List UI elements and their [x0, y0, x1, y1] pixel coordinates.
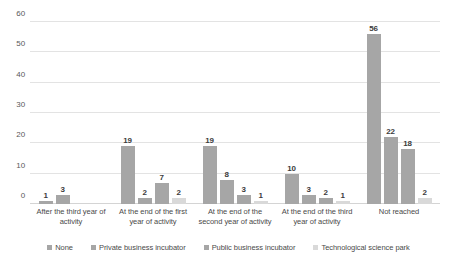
bar-slot[interactable]: 1	[336, 22, 350, 204]
legend-label: Public business incubator	[212, 243, 296, 252]
y-axis-tick-label: 60	[16, 9, 25, 18]
bar-slot[interactable]: 3	[237, 22, 251, 204]
y-axis-tick-label: 40	[16, 69, 25, 78]
x-axis-category-labels: After the third year of activityAt the e…	[30, 207, 440, 227]
bar-value-label: 1	[258, 191, 262, 200]
bar-value-label: 19	[205, 136, 214, 145]
bar[interactable]	[237, 195, 251, 204]
bar-group: 5622182	[358, 22, 440, 204]
legend-label: Technological science park	[321, 243, 409, 252]
legend-label: None	[55, 243, 73, 252]
bar-chart: 0102030405060 13001927219831103215622182…	[0, 0, 457, 264]
bar-value-label: 22	[386, 127, 395, 136]
bar-slot[interactable]: 56	[367, 22, 381, 204]
x-axis-category-label: Not reached	[358, 207, 440, 227]
bar[interactable]	[384, 137, 398, 204]
bar-value-label: 19	[123, 136, 132, 145]
bar[interactable]	[39, 201, 53, 204]
bar[interactable]	[155, 183, 169, 204]
bar-slot[interactable]: 19	[121, 22, 135, 204]
y-axis-tick-label: 30	[16, 100, 25, 109]
legend-item[interactable]: None	[47, 243, 73, 252]
bar-group-bars: 10321	[276, 22, 358, 204]
bar[interactable]	[418, 198, 432, 204]
bar-value-label: 2	[422, 188, 426, 197]
bar[interactable]	[367, 34, 381, 204]
bar-slot[interactable]: 1	[39, 22, 53, 204]
legend-swatch-icon	[47, 245, 52, 250]
legend-item[interactable]: Public business incubator	[204, 243, 296, 252]
bar[interactable]	[336, 201, 350, 204]
bar-slot[interactable]: 3	[302, 22, 316, 204]
bar-value-label: 3	[241, 185, 245, 194]
bar[interactable]	[319, 198, 333, 204]
bar-value-label: 3	[60, 185, 64, 194]
legend-swatch-icon	[313, 245, 318, 250]
bar[interactable]	[138, 198, 152, 204]
bar-group: 10321	[276, 22, 358, 204]
bar-slot[interactable]: 2	[172, 22, 186, 204]
bar-slot[interactable]: 2	[418, 22, 432, 204]
x-axis-category-label: At the end of the first year of activity	[112, 207, 194, 227]
legend-item[interactable]: Private business incubator	[91, 243, 186, 252]
bar-slot[interactable]: 0	[90, 22, 104, 204]
bar-slot[interactable]: 7	[155, 22, 169, 204]
legend-label: Private business incubator	[99, 243, 186, 252]
bar-group: 1300	[30, 22, 112, 204]
bar-value-label: 3	[306, 185, 310, 194]
bar-value-label: 2	[176, 188, 180, 197]
bar-group-bars: 1300	[30, 22, 112, 204]
bar[interactable]	[254, 201, 268, 204]
x-axis-category-label: After the third year of activity	[30, 207, 112, 227]
legend: NonePrivate business incubatorPublic bus…	[0, 243, 457, 252]
bar-group: 19831	[194, 22, 276, 204]
x-axis-category-label: At the end of the second year of activit…	[194, 207, 276, 227]
plot-area: 0102030405060 13001927219831103215622182	[30, 22, 440, 204]
bar-value-label: 1	[43, 191, 47, 200]
bar-value-label: 2	[323, 188, 327, 197]
bar-value-label: 1	[340, 191, 344, 200]
bar-value-label: 10	[287, 164, 296, 173]
bar-slot[interactable]: 2	[138, 22, 152, 204]
y-axis-tick-label: 0	[21, 191, 25, 200]
bar-slot[interactable]: 22	[384, 22, 398, 204]
bar[interactable]	[220, 180, 234, 204]
bar-slot[interactable]: 3	[56, 22, 70, 204]
bar[interactable]	[121, 146, 135, 204]
bar-slot[interactable]: 2	[319, 22, 333, 204]
bar-group-bars: 19272	[112, 22, 194, 204]
legend-item[interactable]: Technological science park	[313, 243, 409, 252]
x-axis-category-label: At the end of the third year of activity	[276, 207, 358, 227]
bar-value-label: 18	[403, 139, 412, 148]
bar-slot[interactable]: 10	[285, 22, 299, 204]
bar-groups: 13001927219831103215622182	[30, 22, 440, 204]
y-axis-tick-label: 10	[16, 160, 25, 169]
bar-slot[interactable]: 8	[220, 22, 234, 204]
bar[interactable]	[172, 198, 186, 204]
bar-group-bars: 5622182	[358, 22, 440, 204]
bar[interactable]	[285, 174, 299, 204]
bar-value-label: 56	[369, 24, 378, 33]
bar[interactable]	[56, 195, 70, 204]
bar-slot[interactable]: 0	[73, 22, 87, 204]
y-axis-tick-label: 20	[16, 130, 25, 139]
bar-slot[interactable]: 19	[203, 22, 217, 204]
legend-swatch-icon	[204, 245, 209, 250]
bar-value-label: 2	[142, 188, 146, 197]
bar-value-label: 8	[224, 170, 228, 179]
bar-group: 19272	[112, 22, 194, 204]
bar[interactable]	[302, 195, 316, 204]
bar-value-label: 7	[159, 173, 163, 182]
bar[interactable]	[401, 149, 415, 204]
y-axis-tick-label: 50	[16, 39, 25, 48]
bar-group-bars: 19831	[194, 22, 276, 204]
bar-slot[interactable]: 18	[401, 22, 415, 204]
bar-slot[interactable]: 1	[254, 22, 268, 204]
bar[interactable]	[203, 146, 217, 204]
legend-swatch-icon	[91, 245, 96, 250]
